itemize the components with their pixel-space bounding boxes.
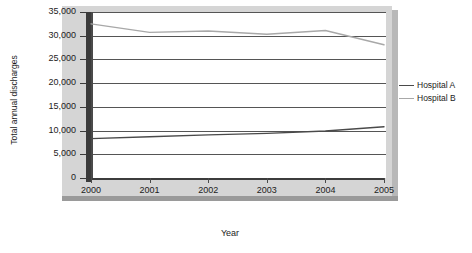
y-tick-label: 20,000 bbox=[48, 78, 76, 87]
y-axis-tick bbox=[80, 59, 87, 60]
x-tick-label: 2003 bbox=[247, 186, 287, 195]
y-axis-tick bbox=[80, 12, 87, 13]
y-axis-tick bbox=[80, 154, 87, 155]
x-axis-line bbox=[86, 178, 384, 180]
x-tick-label: 2002 bbox=[188, 186, 228, 195]
series-line-hospital-a bbox=[91, 127, 384, 139]
x-axis-tick bbox=[384, 178, 385, 183]
y-axis-tick bbox=[80, 107, 87, 108]
x-axis-tick bbox=[208, 178, 209, 183]
legend-item: Hospital A bbox=[399, 79, 471, 92]
y-tick-label: 35,000 bbox=[48, 7, 76, 16]
data-series-layer bbox=[91, 12, 384, 178]
y-axis-tick bbox=[80, 131, 87, 132]
legend-label: Hospital A bbox=[417, 81, 455, 90]
chart-legend: Hospital AHospital B bbox=[399, 79, 471, 105]
line-chart-figure: 05,00010,00015,00020,00025,00030,00035,0… bbox=[0, 0, 472, 253]
legend-label: Hospital B bbox=[417, 94, 456, 103]
plot-slab-bottom-edge bbox=[62, 196, 398, 201]
x-tick-label: 2000 bbox=[71, 186, 111, 195]
y-axis-tick bbox=[80, 178, 87, 179]
series-line-hospital-b bbox=[91, 24, 384, 45]
legend-line-swatch bbox=[399, 85, 414, 86]
x-axis-tick bbox=[267, 178, 268, 183]
x-axis-title: Year bbox=[0, 228, 460, 238]
x-axis-tick bbox=[91, 178, 92, 183]
y-tick-label: 25,000 bbox=[48, 54, 76, 63]
x-tick-label: 2004 bbox=[305, 186, 345, 195]
x-tick-label: 2005 bbox=[364, 186, 404, 195]
y-axis-title: Total annual discharges bbox=[9, 40, 19, 160]
y-tick-label: 30,000 bbox=[48, 31, 76, 40]
clipped-chart-title bbox=[0, 0, 400, 2]
x-axis-tick bbox=[325, 178, 326, 183]
y-tick-label: 5,000 bbox=[53, 149, 76, 158]
y-tick-label: 0 bbox=[71, 173, 76, 182]
x-tick-label: 2001 bbox=[130, 186, 170, 195]
y-axis-tick bbox=[80, 83, 87, 84]
y-tick-label: 10,000 bbox=[48, 126, 76, 135]
legend-line-swatch bbox=[399, 98, 414, 99]
y-tick-label: 15,000 bbox=[48, 102, 76, 111]
legend-item: Hospital B bbox=[399, 92, 471, 105]
y-axis-tick bbox=[80, 36, 87, 37]
x-axis-tick bbox=[150, 178, 151, 183]
